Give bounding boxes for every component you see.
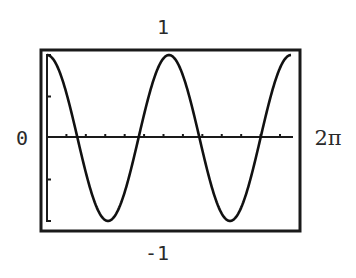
ymax-label: 1 — [157, 15, 169, 39]
xmax-label: 2π — [314, 126, 341, 150]
chart: 1 -1 0 2π — [0, 0, 356, 278]
ymin-label: -1 — [145, 241, 169, 265]
xmin-label: 0 — [16, 126, 28, 150]
